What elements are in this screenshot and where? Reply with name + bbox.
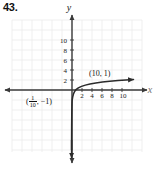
y-tick-label-2: 2 [64,77,68,85]
x-tick-label-6: 6 [100,92,104,100]
y-tick-label-6: 6 [64,57,68,65]
y-tick-label-8: 8 [64,47,68,55]
fraction-denominator: 10 [29,101,37,108]
y-tick-label-4: 4 [64,67,68,75]
point-label-10-1: (10, 1) [89,69,110,78]
x-tick-label-2: 2 [80,92,84,100]
x-tick-label-4: 4 [90,92,94,100]
point-label-remainder: , −1) [37,97,52,106]
figure-container: 43. [0,0,153,170]
y-tick-label-10: 10 [60,37,68,45]
x-tick-label-8: 8 [110,92,114,100]
y-axis-label: y [66,2,72,13]
x-axis-label: x [147,84,153,95]
x-tick-label-10: 10 [120,92,128,100]
fraction-one-tenth: 1 10 [29,95,37,108]
point-label-one-tenth-negative-one: ( 1 10 , −1) [26,95,52,108]
grid-lines [12,20,142,152]
coordinate-plane: 2 4 6 8 10 10 8 6 4 2 y x [0,0,153,170]
